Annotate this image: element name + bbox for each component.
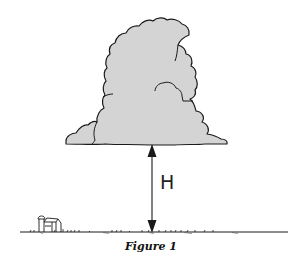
height-label: H — [160, 171, 174, 193]
cumulus-cloud — [66, 18, 227, 145]
arrow-up-head-icon — [148, 144, 157, 157]
farmhouse — [38, 216, 61, 232]
figure-caption: Figure 1 — [0, 240, 302, 253]
house-body — [44, 219, 61, 232]
diagram-canvas — [0, 0, 302, 269]
silo — [38, 216, 45, 232]
cloud-shape — [66, 18, 227, 145]
height-arrow — [148, 144, 157, 233]
ground-line — [20, 229, 288, 234]
